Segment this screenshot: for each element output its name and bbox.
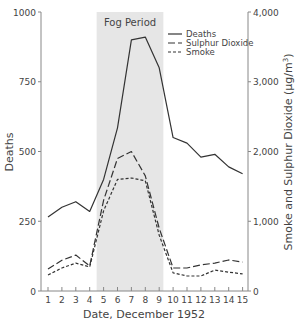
x-tick-label: 1 [45, 295, 51, 305]
x-tick-label: 13 [209, 295, 220, 305]
x-tick-label: 12 [195, 295, 206, 305]
y-tick-label-right: 0 [253, 287, 259, 297]
x-tick-label: 3 [73, 295, 79, 305]
x-tick-label: 9 [156, 295, 162, 305]
x-tick-label: 5 [101, 295, 107, 305]
x-tick-label: 4 [87, 295, 93, 305]
y-tick-label-right: 2,000 [253, 147, 279, 157]
y-tick-label-left: 500 [19, 147, 36, 157]
y-tick-label-left: 250 [19, 217, 36, 227]
legend: DeathsSulphur DioxideSmoke [168, 29, 253, 57]
x-tick-label: 14 [223, 295, 235, 305]
x-tick-label: 2 [59, 295, 65, 305]
x-tick-label: 10 [167, 295, 179, 305]
y-axis-left-label: Deaths [3, 132, 16, 171]
x-tick-label: 15 [237, 295, 248, 305]
x-tick-label: 6 [115, 295, 121, 305]
y-tick-label-right: 3,000 [253, 77, 279, 87]
y-tick-label-right: 1,000 [253, 217, 279, 227]
x-tick-label: 8 [142, 295, 148, 305]
y-tick-label-left: 1000 [13, 8, 36, 18]
fog-period-label: Fog Period [104, 17, 156, 28]
y-tick-label-left: 750 [19, 77, 36, 87]
y-tick-label-right: 4,000 [253, 8, 279, 18]
y-axis-right-label: Smoke and Sulphur Dioxide (µg/m3) [282, 53, 295, 250]
legend-label: Smoke [186, 47, 215, 57]
x-axis-label: Date, December 1952 [83, 308, 205, 321]
y-tick-label-left: 0 [30, 287, 36, 297]
chart: Fog Period 0250500750100001,0002,0003,00… [0, 0, 300, 324]
x-tick-label: 11 [181, 295, 192, 305]
x-tick-label: 7 [129, 295, 135, 305]
